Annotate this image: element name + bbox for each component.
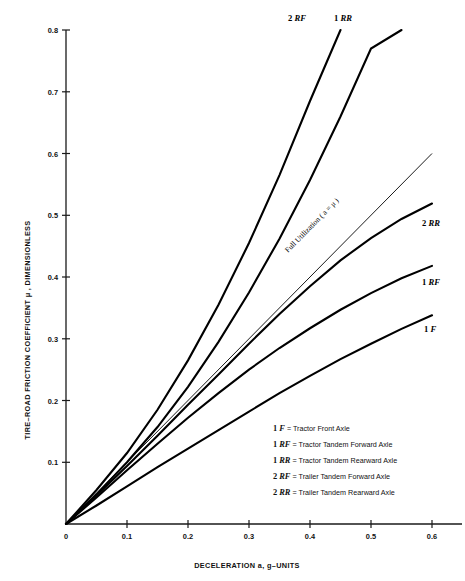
legend-item-1f: 1 F = Tractor Front Axle [273, 424, 350, 433]
x-tick-0.5: 0.5 [366, 532, 376, 541]
x-tick-0.1: 0.1 [122, 532, 132, 541]
x-tick-0.4: 0.4 [305, 532, 316, 541]
curve-label-2rr: 2 RR [422, 218, 440, 228]
legend-item-1rr: 1 RR = Tractor Tandem Rearward Axle [273, 456, 397, 465]
x-axis-tick-labels: 0 0.1 0.2 0.3 0.4 0.5 0.6 [64, 532, 437, 541]
x-axis [66, 520, 462, 528]
legend-text-2rr: = Trailer Tandem Rearward Axle [292, 488, 394, 497]
x-tick-0.6: 0.6 [427, 532, 437, 541]
curve-label-1rf: 1 RF [422, 277, 440, 287]
x-tick-0: 0 [64, 532, 68, 541]
y-tick-0.6: 0.6 [48, 150, 58, 159]
y-tick-0.2: 0.2 [48, 397, 58, 406]
legend-item-1rf: 1 RF = Tractor Tandem Forward Axle [273, 440, 392, 449]
legend-code-1rr: 1 RR [273, 456, 290, 465]
y-tick-0.7: 0.7 [48, 88, 58, 97]
curve-1rr [66, 30, 402, 524]
y-axis [62, 30, 70, 524]
x-tick-0.3: 0.3 [244, 532, 254, 541]
curve-2rf [66, 30, 341, 524]
curve-label-2rf: 2 RF [288, 13, 306, 23]
x-tick-0.2: 0.2 [183, 532, 193, 541]
curve-label-1rr: 1 RR [334, 13, 352, 23]
y-tick-0.4: 0.4 [48, 273, 59, 282]
legend-text-2rf: = Trailer Tandem Forward Axle [292, 472, 390, 481]
y-axis-title: TIRE–ROAD FRICTION COEFFICIENT μ , DIMEN… [23, 220, 32, 439]
y-tick-0.8: 0.8 [48, 26, 58, 35]
legend-item-2rr: 2 RR = Trailer Tandem Rearward Axle [273, 488, 395, 497]
legend-text-1rf: = Tractor Tandem Forward Axle [292, 440, 392, 449]
legend-code-2rr: 2 RR [273, 488, 290, 497]
full-utilization-label: Full Utilization ( a = μ ) [283, 196, 341, 255]
curve-1rf [66, 266, 432, 524]
legend-code-2rf: 2 RF [273, 472, 290, 481]
x-axis-title: DECELERATION a, g–UNITS [194, 561, 300, 570]
chart-figure: 0.8 0.7 0.6 0.5 0.4 0.3 0.2 0.1 0 0.1 0.… [0, 0, 465, 581]
y-axis-tick-labels: 0.8 0.7 0.6 0.5 0.4 0.3 0.2 0.1 [48, 26, 59, 467]
y-tick-0.1: 0.1 [48, 458, 58, 467]
y-tick-0.5: 0.5 [48, 211, 58, 220]
y-tick-0.3: 0.3 [48, 335, 58, 344]
chart-canvas: 0.8 0.7 0.6 0.5 0.4 0.3 0.2 0.1 0 0.1 0.… [0, 0, 465, 581]
legend-code-1f: 1 F [273, 424, 285, 433]
legend-text-1f: = Tractor Front Axle [287, 424, 350, 433]
curve-label-1f: 1 F [424, 324, 436, 334]
legend-code-1rf: 1 RF [273, 440, 290, 449]
legend-text-1rr: = Tractor Tandem Rearward Axle [292, 456, 397, 465]
legend-item-2rf: 2 RF = Trailer Tandem Forward Axle [273, 472, 390, 481]
